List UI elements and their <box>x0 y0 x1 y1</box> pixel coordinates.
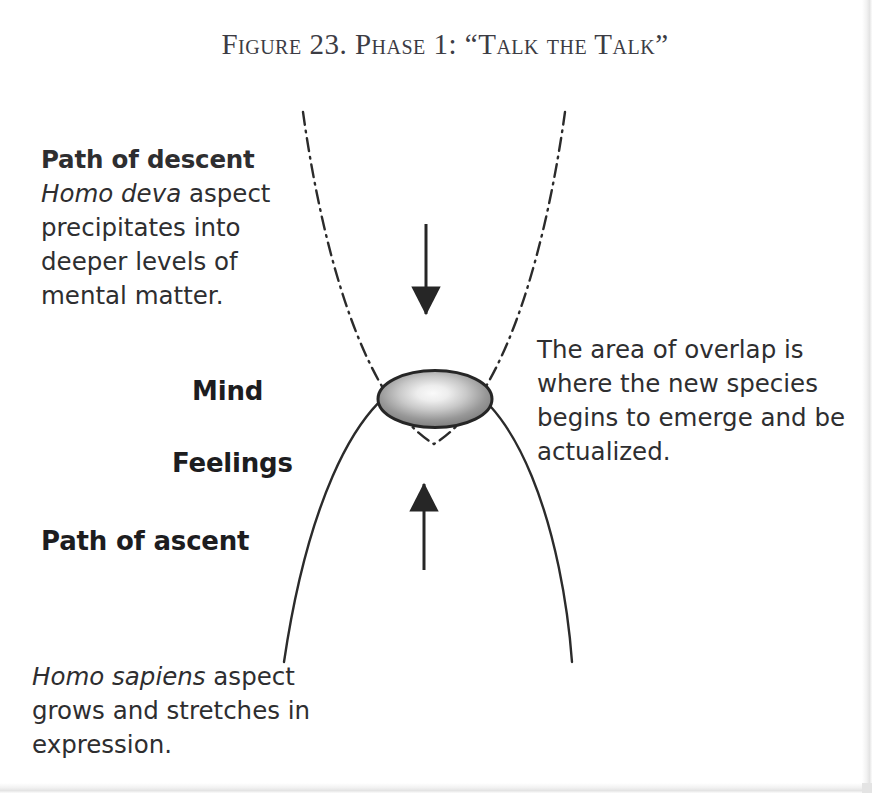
path-of-ascent-heading: Path of ascent <box>41 526 249 556</box>
path-of-descent-block: Path of descent Homo deva aspect precipi… <box>41 143 321 313</box>
homo-deva-term: Homo deva <box>41 179 181 208</box>
path-of-ascent-body: Homo sapiens aspect grows and stretches … <box>32 660 332 762</box>
path-of-descent-body: Homo deva aspect precipitates into deepe… <box>41 177 321 313</box>
page-edge-shadow-bottom <box>0 783 872 793</box>
path-of-ascent-block: Homo sapiens aspect grows and stretches … <box>32 660 332 762</box>
ascent-curve <box>284 373 572 662</box>
figure-page: Figure 23. Phase 1: “Talk the Talk” <box>0 0 890 811</box>
overlap-ellipse <box>378 371 492 428</box>
path-of-descent-heading: Path of descent <box>41 143 321 177</box>
descent-curve <box>303 112 565 444</box>
figure-title: Figure 23. Phase 1: “Talk the Talk” <box>0 28 890 61</box>
mind-label: Mind <box>192 376 263 406</box>
overlap-note: The area of overlap is where the new spe… <box>537 333 867 469</box>
page-edge-shadow-corner <box>862 783 872 793</box>
feelings-label: Feelings <box>172 448 293 478</box>
homo-sapiens-term: Homo sapiens <box>32 662 206 691</box>
